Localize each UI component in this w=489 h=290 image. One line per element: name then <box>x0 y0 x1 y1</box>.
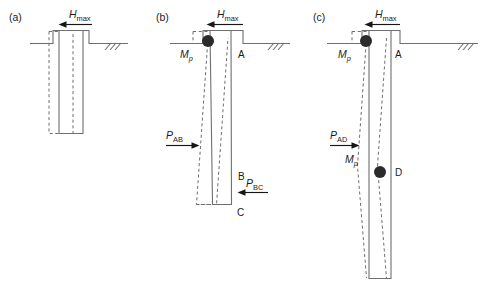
point-label-b-b: B <box>238 171 245 182</box>
pressure-label-pad-c: PAD <box>330 129 347 144</box>
panel-label-b: (b) <box>156 11 169 23</box>
plastic-hinge-mid-c <box>374 166 386 178</box>
panel-label-a: (a) <box>9 11 22 23</box>
point-label-a-b: A <box>238 49 245 60</box>
wall-shaft-b <box>210 31 232 205</box>
displaced-edge-right-c <box>378 38 387 278</box>
moment-label-mp-top-c: Mp <box>338 48 351 63</box>
pile-cap-a <box>53 31 89 44</box>
displaced-shape-a <box>49 32 73 134</box>
structural-diagram-svg: Hmax (a) <box>0 0 489 290</box>
point-label-a-c: A <box>395 49 402 60</box>
panel-b: Hmax Mp A PAB B PBC C (b) <box>156 8 290 218</box>
displaced-edge-left-c <box>358 38 367 278</box>
panel-label-c: (c) <box>313 11 325 23</box>
moment-label-mp-mid-c: Mp <box>345 153 358 168</box>
point-label-d-c: D <box>395 167 402 178</box>
pressure-label-pbc-b: PBC <box>246 177 264 192</box>
plastic-hinge-top-b <box>202 35 214 47</box>
moment-label-mp-top-b: Mp <box>180 48 193 63</box>
point-label-c-b: C <box>237 207 244 218</box>
plastic-hinge-top-c <box>360 35 372 47</box>
wall-shaft-c <box>369 31 391 279</box>
load-label-hmax-c: Hmax <box>375 8 397 23</box>
pressure-label-pab-b: PAB <box>166 129 183 144</box>
load-label-hmax-b: Hmax <box>217 8 239 23</box>
load-label-hmax-a: Hmax <box>69 8 91 23</box>
panel-c: Hmax Mp A PAD Mp D (c) <box>313 8 478 279</box>
figure-root: Hmax (a) <box>0 0 489 290</box>
wall-shaft-a <box>59 31 83 134</box>
panel-a: Hmax (a) <box>9 8 128 134</box>
